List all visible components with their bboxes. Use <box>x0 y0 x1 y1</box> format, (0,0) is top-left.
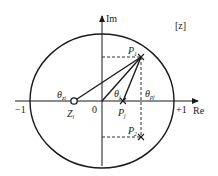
p2-label: P2 <box>127 125 137 137</box>
plus-one-label: +1 <box>176 104 187 115</box>
real-axis-label: Re <box>193 105 205 116</box>
theta-j-label: θj <box>114 88 121 100</box>
p1-label: P1 <box>127 45 137 57</box>
origin-label: 0 <box>92 104 97 115</box>
zero-label: Zi <box>67 108 75 120</box>
minus-one-label: −1 <box>15 104 26 115</box>
pj-label: Pj <box>117 107 126 119</box>
imag-axis-label: Im <box>106 13 117 24</box>
plane-label: [z] <box>175 20 186 31</box>
theta-zi-label: θzi <box>57 89 66 101</box>
zero-marker <box>71 98 77 104</box>
theta-pj-label: θpj <box>145 88 155 100</box>
z-plane-diagram: [z] Im Re 0 −1 +1 Zi P1 Pj P2 θzi θj θpj <box>0 0 218 176</box>
